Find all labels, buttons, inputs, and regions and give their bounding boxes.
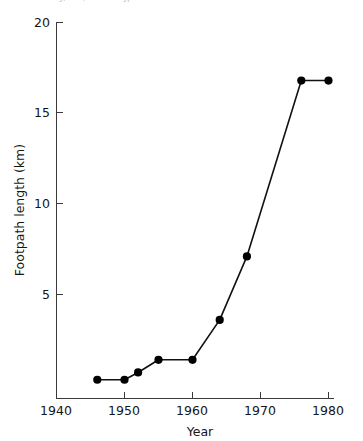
data-point [188,356,196,364]
data-point [297,76,305,84]
y-axis-title: Footpath length (km) [12,144,27,276]
data-point [134,368,142,376]
data-point [154,356,162,364]
x-axis-title: Year [186,424,214,439]
data-series-group [93,76,332,383]
x-axis-ticks [57,392,329,399]
series-line-footpath-length [97,81,328,380]
x-tick-label-1940: 1940 [40,403,72,418]
x-axis-tick-labels: 1940 1950 1960 1970 1980 [40,403,344,418]
y-axis-ticks [57,113,64,295]
y-axis-tick-labels: 20 15 10 5 [34,15,50,302]
chart-figure: GKJ, TH, IKM H. Jpn kmkl t n ll n H 20 1… [0,0,363,441]
series-markers-footpath-length [93,76,332,383]
y-tick-label-20: 20 [34,15,50,30]
data-point [324,76,332,84]
data-point [243,252,251,260]
x-tick-label-1980: 1980 [312,403,344,418]
x-tick-label-1950: 1950 [108,403,140,418]
y-tick-label-5: 5 [42,287,50,302]
line-chart-canvas: 20 15 10 5 1940 1950 1960 1970 1980 Year… [0,0,363,441]
x-tick-label-1960: 1960 [176,403,208,418]
y-tick-label-15: 15 [34,105,50,120]
data-point [93,376,101,384]
data-point [120,376,128,384]
y-tick-label-10: 10 [34,196,50,211]
x-tick-label-1970: 1970 [244,403,276,418]
data-point [216,316,224,324]
